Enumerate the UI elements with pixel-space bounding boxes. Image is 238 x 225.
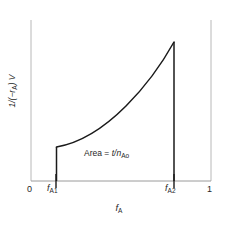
chart-figure: 0 fA1 fA2 1 fA 1/(−rA) V Area = t/nAo — [0, 0, 238, 225]
x-tick-label-fa1: fA1 — [47, 183, 58, 194]
inverse-rate-curve — [57, 42, 175, 147]
fa2-subscript: A2 — [168, 187, 176, 194]
x-tick-label-0: 0 — [27, 184, 32, 194]
y-axis-title-subscript: A — [11, 85, 18, 89]
fa1-subscript: A1 — [50, 187, 58, 194]
chart-canvas — [0, 0, 238, 225]
x-tick-label-1: 1 — [207, 184, 212, 194]
y-axis-title: 1/(−rA) V — [7, 41, 17, 141]
x-tick-label-fa2: fA2 — [165, 183, 176, 194]
area-annotation: Area = t/nAo — [84, 148, 129, 158]
area-denominator-subscript: Ao — [121, 152, 129, 159]
y-axis-title-tail: ) V — [7, 74, 17, 85]
y-axis-title-head: 1/(−r — [7, 90, 17, 108]
x-axis-title-subscript: A — [118, 207, 122, 214]
x-axis-title: fA — [0, 202, 238, 213]
area-prefix: Area = — [84, 148, 112, 158]
